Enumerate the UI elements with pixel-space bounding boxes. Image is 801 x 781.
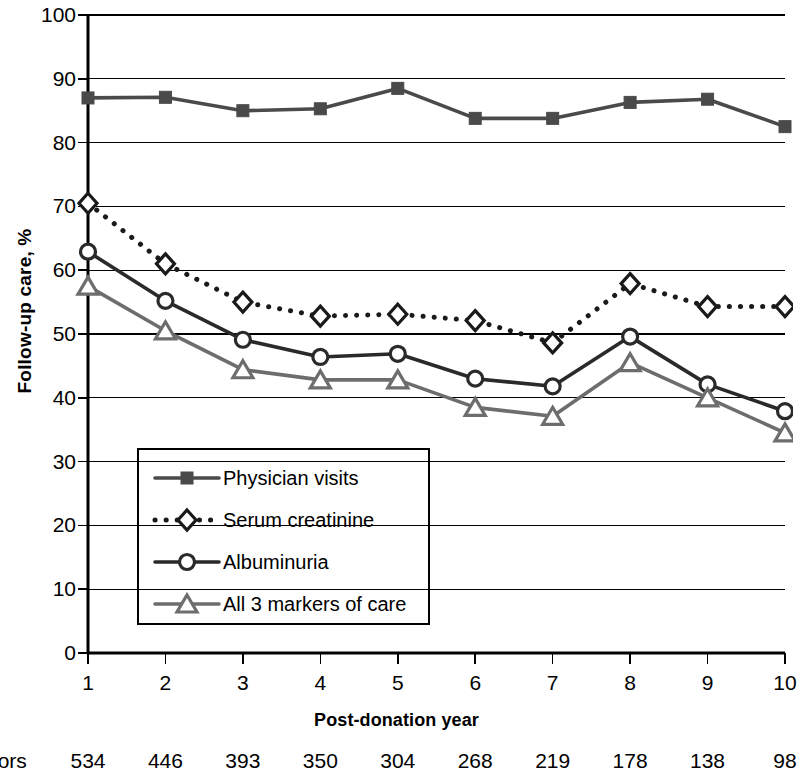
legend-symbol-open-triangle-icon	[151, 591, 223, 617]
legend-symbol-open-circle-icon	[151, 549, 223, 575]
donor-count-row: nors 53444639335030426821917813898	[0, 748, 793, 778]
x-tick-label: 9	[686, 672, 730, 693]
x-tick-label: 1	[66, 672, 110, 693]
x-tick-label: 6	[453, 672, 497, 693]
data-point-filled-square	[181, 472, 193, 484]
donor-count-cell: 350	[285, 748, 355, 774]
legend-symbol-open-diamond-icon	[151, 507, 223, 533]
donor-count-cell: 446	[130, 748, 200, 774]
x-tick-label: 5	[376, 672, 420, 693]
donor-count-cell: 393	[208, 748, 278, 774]
legend-item-2: Albuminuria	[139, 540, 428, 584]
x-tick-label: 8	[608, 672, 652, 693]
legend-label: Albuminuria	[223, 551, 329, 573]
data-point-open-diamond	[178, 510, 196, 530]
donor-count-cell: 219	[518, 748, 588, 774]
x-tick-label: 3	[221, 672, 265, 693]
x-tick-label: 2	[143, 672, 187, 693]
legend-item-1: Serum creatinine	[139, 498, 428, 542]
legend-label: All 3 markers of care	[223, 593, 406, 615]
legend-item-3: All 3 markers of care	[139, 582, 428, 626]
data-point-open-circle	[180, 555, 195, 570]
legend-label: Physician visits	[223, 467, 359, 489]
donor-count-cell: 98	[750, 748, 801, 774]
x-tick-label: 10	[763, 672, 801, 693]
donor-count-cell: 268	[440, 748, 510, 774]
donor-count-cell: 138	[673, 748, 743, 774]
donor-count-label: nors	[0, 748, 27, 774]
chart-legend: Physician visitsSerum creatinineAlbuminu…	[137, 448, 430, 625]
legend-label: Serum creatinine	[223, 509, 374, 531]
donor-count-cell: 178	[595, 748, 665, 774]
legend-item-0: Physician visits	[139, 456, 428, 500]
donor-count-cell: 534	[53, 748, 123, 774]
x-tick-label: 4	[298, 672, 342, 693]
donor-count-cell: 304	[363, 748, 433, 774]
x-tick-label: 7	[531, 672, 575, 693]
x-axis-title: Post-donation year	[0, 710, 793, 731]
legend-symbol-filled-square-icon	[151, 465, 223, 491]
